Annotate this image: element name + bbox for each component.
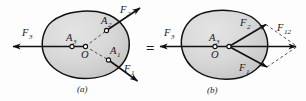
panel-a-label-O: O — [81, 49, 89, 60]
panel-a-label-A3-sub: 3 — [72, 38, 77, 46]
panel-a-label-F2-base: F — [119, 4, 127, 15]
equals-sign: = — [146, 40, 155, 56]
figure-canvas: A 3 O A 2 A 1 F 3 F 2 — [0, 0, 306, 101]
panel-b-label-F12-base: F — [276, 22, 284, 33]
panel-a-point-A1-marker — [106, 58, 110, 62]
panel-a-label-F2-sub: 2 — [127, 10, 131, 18]
panel-a-label-F3-base: F — [21, 27, 29, 38]
panel-a-label-A2-sub: 2 — [108, 21, 112, 29]
panel-b-label-F3-sub: 3 — [170, 33, 175, 41]
panel-a: A 3 O A 2 A 1 F 3 F 2 — [13, 4, 140, 94]
panel-a-caption: (a) — [77, 84, 88, 94]
panel-b-label-F3-base: F — [163, 27, 171, 38]
panel-a-label-A1-base: A — [109, 45, 117, 56]
panel-a-label-F1-sub: 1 — [131, 69, 135, 77]
panel-b: A 3 O F 3 F 2 F 1 F 12 — [160, 10, 297, 95]
panel-a-label-A3-base: A — [65, 32, 73, 43]
panel-a-label-F2: F 2 — [119, 4, 131, 18]
panel-a-label-A2-base: A — [100, 15, 108, 26]
panel-a-label-F1-base: F — [123, 63, 131, 74]
panel-b-caption: (b) — [207, 85, 218, 95]
panel-b-label-A3-sub: 3 — [215, 38, 220, 46]
panel-b-label-A3-base: A — [208, 32, 216, 43]
panel-a-point-O-marker — [83, 44, 87, 48]
panel-b-parallelogram-dashed-from-F1 — [267, 47, 297, 67]
panel-a-label-A1-sub: 1 — [117, 51, 121, 59]
panel-b-rigid-body-outline — [181, 10, 267, 79]
panel-b-label-F1-sub: 1 — [246, 68, 250, 76]
panel-b-label-F1-base: F — [238, 62, 246, 73]
force-transmissibility-figure: A 3 O A 2 A 1 F 3 F 2 — [0, 0, 306, 101]
panel-b-label-F12-sub: 12 — [284, 28, 292, 36]
panel-a-label-F3: F 3 — [21, 27, 33, 41]
panel-b-label-F3: F 3 — [163, 27, 175, 41]
panel-b-label-O: O — [211, 49, 219, 60]
panel-b-label-F12: F 12 — [276, 22, 292, 36]
panel-b-label-F2-base: F — [239, 17, 247, 28]
panel-a-label-F3-sub: 3 — [28, 33, 33, 41]
panel-b-point-O-marker — [227, 44, 231, 48]
panel-b-label-F2-sub: 2 — [247, 23, 251, 31]
panel-a-point-A2-marker — [104, 28, 108, 32]
